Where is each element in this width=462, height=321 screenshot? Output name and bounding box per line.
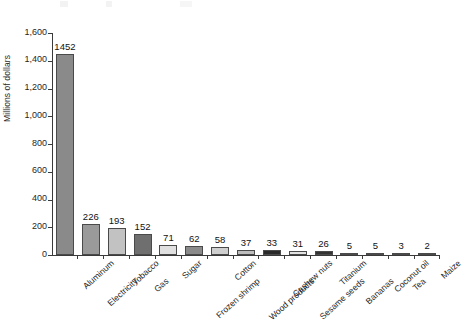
bar[interactable] bbox=[263, 250, 281, 255]
bar-value-label: 5 bbox=[337, 240, 363, 251]
y-tick-label: 400 bbox=[32, 193, 47, 203]
x-category-label: Maize bbox=[439, 258, 462, 281]
x-category-label: Bananas bbox=[364, 276, 396, 306]
bar-slot: 2 bbox=[414, 33, 440, 255]
x-category-label: Frozen shrimp bbox=[214, 276, 262, 320]
bar-value-label: 193 bbox=[104, 215, 130, 226]
bar[interactable] bbox=[315, 251, 333, 255]
bar-value-label: 3 bbox=[388, 240, 414, 251]
bar[interactable] bbox=[108, 228, 126, 255]
bar[interactable] bbox=[185, 246, 203, 255]
bar-slot: 1452 bbox=[52, 33, 78, 255]
bar[interactable] bbox=[289, 251, 307, 255]
bar-slot: 71 bbox=[155, 33, 181, 255]
bar-value-label: 71 bbox=[155, 232, 181, 243]
bar-value-label: 1452 bbox=[52, 41, 78, 52]
y-axis-title: Millions of dollars bbox=[2, 108, 12, 122]
bar[interactable] bbox=[237, 250, 255, 255]
bar-slot: 37 bbox=[233, 33, 259, 255]
plot-area: 02004006008001,0001,2001,4001,600 145222… bbox=[52, 33, 440, 255]
y-tick-label: 1,200 bbox=[24, 82, 47, 92]
bar-value-label: 37 bbox=[233, 237, 259, 248]
x-axis-line bbox=[52, 255, 440, 256]
bar-slot: 31 bbox=[285, 33, 311, 255]
scan-artifact bbox=[60, 1, 240, 7]
x-category-label: Sugar bbox=[180, 258, 204, 281]
bar[interactable] bbox=[134, 234, 152, 255]
bar[interactable] bbox=[392, 253, 410, 256]
bar-value-label: 31 bbox=[285, 238, 311, 249]
y-tick-label: 1,400 bbox=[24, 54, 47, 64]
bar[interactable] bbox=[56, 54, 74, 255]
bar[interactable] bbox=[340, 253, 358, 256]
bar[interactable] bbox=[418, 253, 436, 256]
bar-slot: 5 bbox=[337, 33, 363, 255]
y-tick-label: 0 bbox=[42, 249, 47, 259]
bar-slot: 33 bbox=[259, 33, 285, 255]
bar-value-label: 26 bbox=[311, 238, 337, 249]
bar-series: 1452226193152716258373331265532 bbox=[52, 33, 440, 255]
y-tick-label: 600 bbox=[32, 165, 47, 175]
bar-slot: 226 bbox=[78, 33, 104, 255]
bar-value-label: 5 bbox=[362, 240, 388, 251]
bar-value-label: 33 bbox=[259, 237, 285, 248]
bar[interactable] bbox=[159, 245, 177, 255]
x-category-label: Aluminum bbox=[80, 258, 115, 291]
x-category-label: Cashew nuts bbox=[290, 258, 334, 299]
bar-slot: 62 bbox=[181, 33, 207, 255]
bar-slot: 58 bbox=[207, 33, 233, 255]
y-tick-mark bbox=[48, 255, 52, 256]
y-tick-label: 1,000 bbox=[24, 110, 47, 120]
x-category-label: Coconut oil bbox=[392, 258, 431, 294]
bar-value-label: 58 bbox=[207, 234, 233, 245]
bar-value-label: 226 bbox=[78, 211, 104, 222]
bar-slot: 26 bbox=[311, 33, 337, 255]
x-axis-category-labels: AluminumElectricityTobaccoGasSugarFrozen… bbox=[52, 258, 452, 321]
bar-slot: 3 bbox=[388, 33, 414, 255]
bar-value-label: 152 bbox=[130, 221, 156, 232]
bar[interactable] bbox=[82, 224, 100, 255]
y-tick-label: 800 bbox=[32, 138, 47, 148]
bar[interactable] bbox=[366, 253, 384, 256]
bar-slot: 152 bbox=[130, 33, 156, 255]
bar-slot: 193 bbox=[104, 33, 130, 255]
bar[interactable] bbox=[211, 247, 229, 255]
bar-value-label: 62 bbox=[181, 233, 207, 244]
bar-slot: 5 bbox=[362, 33, 388, 255]
y-tick-label: 200 bbox=[32, 221, 47, 231]
x-category-label: Gas bbox=[152, 276, 170, 294]
bar-value-label: 2 bbox=[414, 240, 440, 251]
y-tick-label: 1,600 bbox=[24, 27, 47, 37]
